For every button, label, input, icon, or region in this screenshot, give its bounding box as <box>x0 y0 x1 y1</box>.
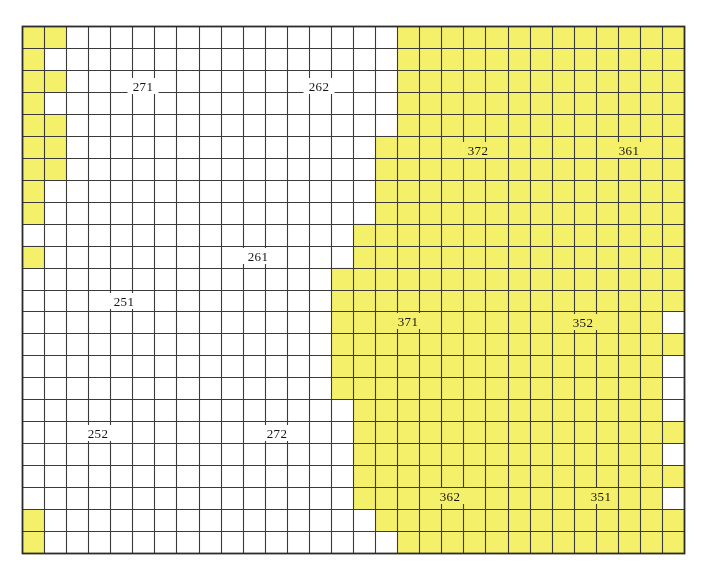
grid-zone-map <box>0 0 706 574</box>
figure-canvas: 271262372361261251371352252272362351 <box>0 0 706 574</box>
